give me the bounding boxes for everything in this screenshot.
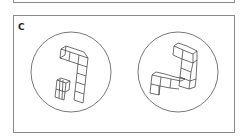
cube-edge xyxy=(174,43,197,54)
cube-edge xyxy=(74,91,84,103)
cube-edge xyxy=(77,64,87,76)
cube-edge xyxy=(76,73,86,85)
cube-edge xyxy=(75,82,85,94)
cube-edge xyxy=(62,80,63,99)
cube-edge xyxy=(182,54,193,63)
cube-edge xyxy=(56,80,66,92)
right-circle xyxy=(138,32,218,112)
left-circle xyxy=(31,32,111,112)
right-rotated-object xyxy=(138,32,218,112)
cube-edge xyxy=(170,88,179,89)
left-rotated-object xyxy=(31,32,111,112)
cube-edge xyxy=(59,79,60,98)
cube-edge xyxy=(160,79,171,88)
cube-edge xyxy=(57,78,70,83)
cube-edge xyxy=(78,55,79,64)
cube-edge xyxy=(69,52,70,61)
mental-rotation-figure xyxy=(0,0,244,137)
